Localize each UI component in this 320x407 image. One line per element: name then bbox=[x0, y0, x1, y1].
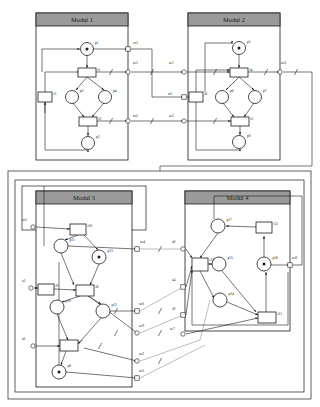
place-circle bbox=[213, 293, 227, 307]
place-label: p8 bbox=[68, 364, 72, 368]
connection-label-ao2: ao2 bbox=[133, 114, 138, 118]
transition-rect bbox=[256, 222, 272, 233]
place-label: p2 bbox=[80, 89, 84, 93]
connection-label-en1: en1 bbox=[133, 41, 138, 45]
connection-label-a6: a6 bbox=[22, 337, 26, 341]
place-label: p16 bbox=[273, 256, 279, 260]
port-af1[interactable] bbox=[182, 95, 186, 99]
place-token bbox=[98, 256, 101, 259]
port-ao3b[interactable] bbox=[135, 376, 139, 380]
place-circle bbox=[50, 300, 64, 314]
tick-m3-6 bbox=[158, 358, 161, 364]
connection-label-ao1: ao1 bbox=[133, 61, 138, 65]
transition-label: t7 bbox=[80, 340, 83, 344]
port-ao2[interactable] bbox=[126, 119, 130, 123]
place-label: p10 bbox=[66, 299, 72, 303]
connection-label-a8: a8 bbox=[172, 240, 176, 244]
place-token bbox=[86, 48, 89, 51]
module-title: Modul 2 bbox=[223, 16, 245, 23]
connection-label-ao4: ao4 bbox=[140, 240, 145, 244]
transition-label: t1 bbox=[98, 68, 101, 72]
place-label: p14 bbox=[229, 292, 235, 296]
place-circle bbox=[54, 239, 68, 253]
transition-rect bbox=[70, 224, 86, 235]
place-token bbox=[58, 371, 61, 374]
place-circle bbox=[233, 136, 246, 149]
port-ae7[interactable] bbox=[181, 332, 185, 336]
connection-label-a3: a3 bbox=[22, 279, 26, 283]
place-token bbox=[238, 47, 241, 50]
module-title: Modul 1 bbox=[71, 16, 93, 23]
transition-label: t5 bbox=[251, 117, 254, 121]
port-ao6[interactable] bbox=[135, 309, 139, 313]
place-label: p8 bbox=[247, 134, 251, 138]
transition-rect bbox=[192, 258, 208, 271]
connection-label-a4: a4 bbox=[172, 278, 176, 282]
port-en1[interactable] bbox=[126, 47, 130, 51]
module-title: Modul 4 bbox=[227, 194, 250, 201]
place-label: p12 bbox=[112, 303, 118, 307]
tick-m3-2 bbox=[158, 330, 161, 336]
module-body bbox=[36, 13, 128, 160]
port-ao3[interactable] bbox=[278, 70, 282, 74]
place-circle bbox=[99, 91, 112, 104]
connection-label-ae1: ae1 bbox=[169, 61, 174, 65]
connection-label-ao5: ao5 bbox=[22, 218, 27, 222]
place-circle bbox=[82, 137, 95, 150]
transition-label: t2 bbox=[99, 117, 102, 121]
place-label: p1 bbox=[95, 41, 99, 45]
transition-rect bbox=[189, 92, 203, 102]
connection-label-ao9: ao9 bbox=[139, 324, 144, 328]
port-a9[interactable] bbox=[181, 313, 185, 317]
port-ao5[interactable] bbox=[31, 225, 35, 229]
connection-label-ao3: ao3 bbox=[281, 61, 286, 65]
port-a6[interactable] bbox=[31, 344, 35, 348]
transition-label: t9 bbox=[56, 284, 59, 288]
port-ao4[interactable] bbox=[135, 247, 139, 251]
connection-label-ao8: ao8 bbox=[292, 256, 297, 260]
arc-ao3b-path bbox=[140, 345, 205, 378]
place-label: p4 bbox=[113, 89, 117, 93]
transition-rect bbox=[76, 285, 94, 296]
transition-rect bbox=[38, 92, 52, 102]
transition-rect bbox=[79, 117, 97, 126]
place-token bbox=[263, 263, 266, 266]
diagram-canvas: Modul 1Modul 2Modul 3Modul 4 p1p2p4p3p5p… bbox=[0, 0, 320, 407]
transition-label: t12 bbox=[274, 222, 279, 226]
place-label: p7 bbox=[263, 89, 267, 93]
connection-label-af1: af1 bbox=[168, 92, 173, 96]
transition-label: t4 bbox=[250, 68, 253, 72]
place-circle bbox=[96, 304, 110, 318]
port-ae1[interactable] bbox=[182, 70, 186, 74]
transition-rect bbox=[38, 284, 54, 295]
port-a8[interactable] bbox=[181, 247, 185, 251]
port-ao8[interactable] bbox=[288, 263, 292, 267]
transition-label: t6 bbox=[205, 92, 208, 96]
port-ao9[interactable] bbox=[135, 331, 139, 335]
place-label: p11 bbox=[70, 238, 75, 242]
transition-label: t3 bbox=[54, 92, 57, 96]
transition-rect bbox=[60, 340, 78, 351]
place-label: p13 bbox=[108, 249, 114, 253]
tick-m3-1 bbox=[158, 308, 161, 314]
transition-rect bbox=[258, 312, 276, 323]
place-circle bbox=[212, 257, 226, 271]
transition-label: t13 bbox=[210, 258, 215, 262]
arc-ao6-a4 bbox=[140, 287, 183, 311]
place-circle bbox=[249, 91, 262, 104]
port-ao2b[interactable] bbox=[135, 359, 139, 363]
place-label: p17 bbox=[227, 218, 233, 222]
port-a4[interactable] bbox=[181, 285, 185, 289]
place-label: p3 bbox=[96, 135, 100, 139]
connection-label-a9: a9 bbox=[172, 307, 176, 311]
place-circle bbox=[216, 91, 229, 104]
place-label: p6 bbox=[230, 89, 234, 93]
transition-rect bbox=[230, 68, 248, 77]
port-a3[interactable] bbox=[29, 286, 33, 290]
connection-label-ao3b: ao3 bbox=[139, 369, 144, 373]
port-ao1[interactable] bbox=[126, 70, 130, 74]
module-m1: Modul 1 bbox=[36, 13, 128, 160]
port-ae2[interactable] bbox=[182, 119, 186, 123]
connection-label-ao6: ao6 bbox=[139, 302, 144, 306]
petri-net-diagram: Modul 1Modul 2Modul 3Modul 4 p1p2p4p3p5p… bbox=[0, 0, 320, 407]
